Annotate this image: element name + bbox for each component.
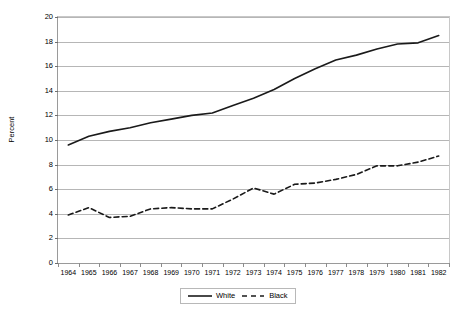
x-axis-tick-label: 1970 <box>184 269 200 277</box>
x-axis-tick-mark <box>243 263 244 267</box>
x-axis-tick-label: 1975 <box>287 269 303 277</box>
legend-swatch-solid-line-icon <box>188 293 212 299</box>
x-axis-tick-label: 1974 <box>266 269 282 277</box>
y-axis-tick-label: 18 <box>45 38 53 46</box>
x-axis-tick-mark <box>181 263 182 267</box>
x-axis-tick-label: 1980 <box>390 269 406 277</box>
x-axis-tick-mark <box>428 263 429 267</box>
x-axis-tick-label: 1969 <box>163 269 179 277</box>
chart-legend: White Black <box>180 288 296 304</box>
x-axis-tick-label: 1968 <box>143 269 159 277</box>
x-axis-tick-mark <box>264 263 265 267</box>
y-axis-tick-label: 16 <box>45 62 53 70</box>
x-axis-tick-label: 1979 <box>369 269 385 277</box>
x-axis-tick-label: 1981 <box>410 269 426 277</box>
x-axis-tick-label: 1982 <box>431 269 447 277</box>
x-axis-tick-mark <box>58 263 59 267</box>
x-axis-tick-label: 1966 <box>102 269 118 277</box>
y-axis-title: Percent <box>7 100 16 160</box>
x-axis-tick-mark <box>161 263 162 267</box>
legend-label-white: White <box>216 291 235 300</box>
legend-swatch-dashed-line-icon <box>241 293 265 299</box>
x-axis-tick-label: 1967 <box>122 269 138 277</box>
y-axis-tick-label: 14 <box>45 87 53 95</box>
y-axis-tick-label: 2 <box>49 234 53 242</box>
x-axis-tick-mark <box>120 263 121 267</box>
legend-label-black: Black <box>269 291 287 300</box>
series-line-white <box>68 35 438 144</box>
y-axis-tick-label: 0 <box>49 259 53 267</box>
series-lines <box>58 17 449 263</box>
x-axis-tick-mark <box>202 263 203 267</box>
x-axis-tick-mark <box>99 263 100 267</box>
x-axis-tick-label: 1978 <box>349 269 365 277</box>
line-chart: Percent 02468101214161820 19641965196619… <box>0 0 465 311</box>
legend-item-black: Black <box>241 291 287 300</box>
y-axis-tick-label: 12 <box>45 111 53 119</box>
x-axis-tick-mark <box>346 263 347 267</box>
x-axis-tick-mark <box>79 263 80 267</box>
legend-item-white: White <box>188 291 235 300</box>
x-axis-tick-label: 1965 <box>81 269 97 277</box>
series-line-black <box>68 156 438 218</box>
x-axis-tick-mark <box>140 263 141 267</box>
x-axis-tick-mark <box>387 263 388 267</box>
x-axis-tick-mark <box>449 263 450 267</box>
y-axis-tick-label: 6 <box>49 185 53 193</box>
x-axis-tick-mark <box>408 263 409 267</box>
plot-area: 02468101214161820 1964196519661967196819… <box>57 16 450 264</box>
y-axis-tick-label: 8 <box>49 161 53 169</box>
y-axis-tick-label: 10 <box>45 136 53 144</box>
x-axis-tick-label: 1976 <box>307 269 323 277</box>
x-axis-tick-mark <box>367 263 368 267</box>
x-axis-tick-label: 1971 <box>205 269 221 277</box>
x-axis-tick-label: 1977 <box>328 269 344 277</box>
x-axis-tick-mark <box>326 263 327 267</box>
x-axis-tick-label: 1972 <box>225 269 241 277</box>
y-axis-tick-label: 20 <box>45 13 53 21</box>
x-axis-tick-mark <box>223 263 224 267</box>
x-axis-tick-label: 1964 <box>60 269 76 277</box>
x-axis-tick-mark <box>305 263 306 267</box>
y-axis-tick-label: 4 <box>49 210 53 218</box>
x-axis-tick-label: 1973 <box>246 269 262 277</box>
x-axis-tick-mark <box>284 263 285 267</box>
